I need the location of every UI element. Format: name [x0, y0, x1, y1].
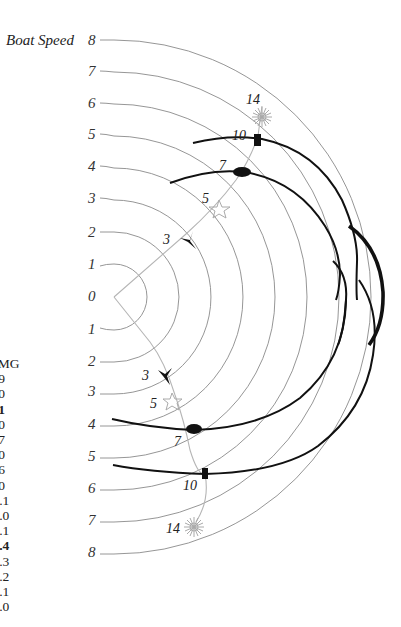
tick-label: 8 [88, 32, 96, 48]
tick-label: 3 [87, 190, 96, 206]
tick-label: 5 [88, 448, 96, 464]
marker-label: 3 [141, 368, 149, 383]
marker-label: 5 [202, 191, 209, 206]
marker-label: 10 [232, 128, 246, 143]
tick-label: 6 [88, 480, 96, 496]
sunburst-marker-icon [252, 107, 272, 127]
ellipse-marker-icon [233, 167, 251, 177]
tick-label: 7 [88, 63, 97, 79]
vmg-value: -5.0 [0, 599, 28, 614]
star-marker-icon [209, 200, 230, 218]
tick-label: 4 [88, 158, 96, 174]
ellipse-marker-icon [186, 424, 202, 434]
tick-label: 2 [88, 353, 96, 369]
sunburst-marker-icon [184, 517, 204, 537]
vmg-value: -5.2 [0, 569, 28, 584]
vmg-table: VMG 3.9 4.0 4.1 4.0 3.7 3.0 1.6 0.0 -2.1… [0, 356, 28, 614]
marker-label: 14 [246, 92, 260, 107]
vmg-value-best: -5.4 [0, 538, 28, 553]
vmg-value: -2.1 [0, 493, 28, 508]
vmg-value: -5.1 [0, 523, 28, 538]
polar-curves [112, 137, 383, 474]
vmg-value: -5.3 [0, 554, 28, 569]
square-marker-icon [202, 468, 208, 479]
vmg-value: 0.0 [0, 478, 28, 493]
vmg-value: -4.0 [0, 508, 28, 523]
marker-label: 5 [150, 396, 157, 411]
tick-label: 6 [88, 95, 96, 111]
boat-speed-polar-chart: Boat Speed 8 7 6 5 4 3 2 1 0 1 2 3 4 5 6… [0, 0, 401, 627]
tick-label: 1 [88, 321, 96, 337]
tick-label: 3 [87, 383, 96, 399]
vmg-value: 3.0 [0, 447, 28, 462]
marker-label: 3 [162, 232, 170, 247]
tick-label: 5 [88, 126, 96, 142]
chart-title: Boat Speed [6, 32, 74, 48]
marker-label: 7 [174, 434, 182, 449]
tick-label: 8 [88, 544, 96, 560]
tick-label: 7 [88, 512, 97, 528]
vmg-value: 4.0 [0, 386, 28, 401]
radial-tick-labels: 8 7 6 5 4 3 2 1 0 1 2 3 4 5 6 7 8 [87, 32, 97, 560]
vmg-value: -5.1 [0, 584, 28, 599]
marker-label: 7 [219, 158, 227, 173]
vmg-value: 1.6 [0, 462, 28, 477]
vmg-value: 3.9 [0, 371, 28, 386]
tick-label: 2 [88, 224, 96, 240]
tick-label: 0 [88, 288, 96, 304]
marker-label: 10 [183, 478, 197, 493]
square-marker-icon [254, 134, 261, 146]
marker-label: 14 [166, 521, 180, 536]
vmg-header: VMG [0, 356, 28, 371]
tick-label: 4 [88, 416, 96, 432]
tick-label: 1 [88, 256, 96, 272]
speed-rings [100, 40, 371, 554]
vmg-value-best: 4.1 [0, 402, 28, 417]
vmg-value: 3.7 [0, 432, 28, 447]
vmg-value: 4.0 [0, 417, 28, 432]
